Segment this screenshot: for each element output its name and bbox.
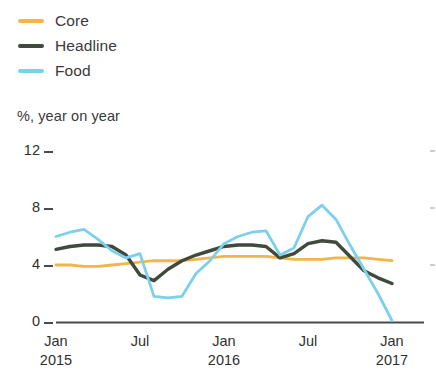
inflation-line-chart: Core Headline Food %, year on year 12 8 … <box>0 0 436 374</box>
plot-area <box>0 0 436 374</box>
right-edge-ticks <box>430 151 435 265</box>
series-line-food <box>56 205 392 320</box>
data-series-group <box>56 205 392 320</box>
series-line-core <box>56 256 392 266</box>
plot-svg <box>0 0 436 374</box>
